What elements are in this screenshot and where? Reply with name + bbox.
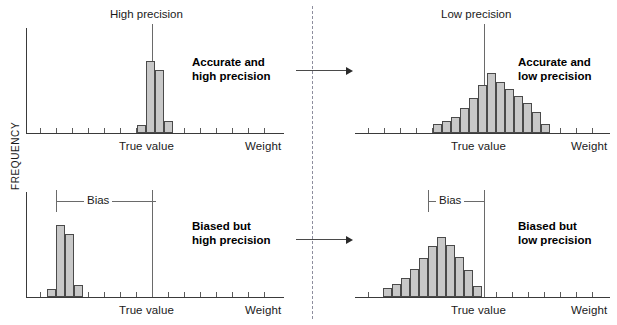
bias-bracket-cap-left xyxy=(56,190,57,212)
true-value-label-top-right: True value xyxy=(451,140,506,152)
histogram-bar xyxy=(146,61,155,133)
x-tick xyxy=(168,292,169,297)
histogram-bar xyxy=(433,124,442,133)
x-tick xyxy=(576,292,577,297)
callout-bottom-right-line1: Biased but xyxy=(518,219,577,233)
histogram-bar xyxy=(478,85,487,133)
x-tick xyxy=(72,128,73,133)
x-tick xyxy=(120,128,121,133)
y-axis-bottom-left xyxy=(26,192,27,297)
bias-bracket-cap-left xyxy=(428,190,429,212)
histogram-bar xyxy=(401,278,410,297)
histogram-bar xyxy=(523,103,532,133)
x-tick xyxy=(216,292,217,297)
x-axis-label-bottom-left: Weight xyxy=(245,304,281,316)
callout-top-left-line2: high precision xyxy=(192,69,271,83)
x-tick xyxy=(528,292,529,297)
x-tick xyxy=(384,128,385,133)
histogram-bar xyxy=(460,108,469,133)
histogram-bar xyxy=(437,237,446,297)
x-tick xyxy=(40,128,41,133)
x-tick xyxy=(592,128,593,133)
bias-label-bottom-right: Bias xyxy=(436,194,464,206)
y-axis-top-left xyxy=(26,28,27,133)
x-tick xyxy=(232,292,233,297)
x-tick xyxy=(184,292,185,297)
histogram-bar xyxy=(541,124,550,133)
x-tick xyxy=(496,292,497,297)
histogram-bar xyxy=(65,234,74,297)
x-tick xyxy=(184,128,185,133)
arrow-head-icon xyxy=(346,236,353,244)
histogram-bar xyxy=(137,125,146,133)
x-tick xyxy=(400,128,401,133)
x-tick xyxy=(560,128,561,133)
x-tick xyxy=(544,292,545,297)
histogram-bar xyxy=(47,289,56,297)
x-tick xyxy=(592,292,593,297)
x-axis-label-bottom-right: Weight xyxy=(571,304,607,316)
bias-label-bottom-left: Bias xyxy=(84,194,112,206)
bias-precision-figure: FREQUENCY High precision Accura xyxy=(0,0,617,325)
precision-label-top-left: High precision xyxy=(110,8,183,20)
histogram-bar xyxy=(155,70,164,133)
histogram-bar xyxy=(451,117,460,133)
x-tick xyxy=(88,128,89,133)
y-axis-label: FREQUENCY xyxy=(10,122,21,190)
x-axis-bottom-right xyxy=(355,297,610,298)
x-tick xyxy=(40,292,41,297)
x-tick xyxy=(368,128,369,133)
x-tick xyxy=(88,292,89,297)
histogram-bar xyxy=(164,121,173,133)
x-tick xyxy=(120,292,121,297)
callout-bottom-right-line2: low precision xyxy=(518,233,592,247)
x-tick xyxy=(512,292,513,297)
x-tick xyxy=(248,128,249,133)
arrow-shaft xyxy=(296,239,348,240)
x-tick xyxy=(104,292,105,297)
arrow-shaft xyxy=(296,70,348,71)
histogram-bar xyxy=(473,286,482,297)
histogram-bar xyxy=(464,270,473,297)
histogram-bar xyxy=(446,245,455,297)
arrow-head-icon xyxy=(346,67,353,75)
histogram-bar xyxy=(74,285,83,297)
x-tick xyxy=(368,292,369,297)
histogram-bar xyxy=(487,73,496,133)
true-value-line-bottom-right xyxy=(484,190,485,297)
x-tick xyxy=(104,128,105,133)
x-axis-bottom-left xyxy=(26,297,284,298)
true-value-label-bottom-right: True value xyxy=(451,304,506,316)
x-tick xyxy=(416,128,417,133)
callout-top-right-line1: Accurate and xyxy=(518,55,591,69)
histogram-bar xyxy=(505,89,514,133)
x-axis-top-right xyxy=(355,133,610,134)
x-tick xyxy=(232,128,233,133)
x-axis-top-left xyxy=(26,133,284,134)
x-tick xyxy=(136,292,137,297)
true-value-label-bottom-left: True value xyxy=(119,304,174,316)
histogram-bar xyxy=(469,98,478,133)
histogram-bar xyxy=(514,96,523,133)
panel-divider xyxy=(312,6,313,319)
histogram-bar xyxy=(496,82,505,133)
x-tick xyxy=(576,128,577,133)
callout-bottom-left-line2: high precision xyxy=(192,233,271,247)
callout-bottom-left-line1: Biased but xyxy=(192,219,251,233)
true-value-label-top-left: True value xyxy=(119,140,174,152)
x-tick xyxy=(56,128,57,133)
true-value-line-bottom-left xyxy=(152,190,153,297)
histogram-bar xyxy=(532,112,541,133)
x-tick xyxy=(264,128,265,133)
x-tick xyxy=(248,292,249,297)
x-axis-label-top-left: Weight xyxy=(245,140,281,152)
x-tick xyxy=(200,292,201,297)
x-tick xyxy=(560,292,561,297)
histogram-bar xyxy=(455,257,464,297)
x-tick xyxy=(216,128,217,133)
histogram-bar xyxy=(428,246,437,297)
precision-label-top-right: Low precision xyxy=(441,8,511,20)
histogram-bar xyxy=(383,288,392,297)
histogram-bar xyxy=(442,121,451,133)
histogram-bar xyxy=(392,284,401,297)
